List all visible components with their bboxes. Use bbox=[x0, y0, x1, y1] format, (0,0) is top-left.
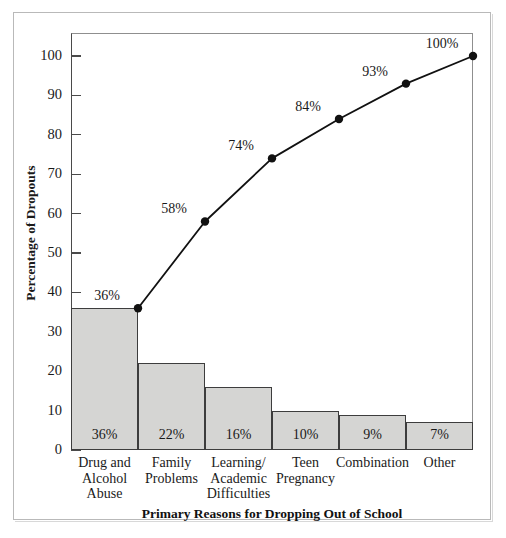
y-axis-tick-label: 100 bbox=[0, 48, 62, 63]
cumulative-point-label: 36% bbox=[79, 288, 135, 304]
bar: 10% bbox=[272, 411, 339, 450]
bar-value-label: 9% bbox=[340, 427, 405, 443]
y-axis-tick-mark bbox=[71, 174, 81, 175]
bar: 7% bbox=[406, 422, 473, 450]
bar-value-label: 10% bbox=[273, 427, 338, 443]
bar: 36% bbox=[71, 308, 138, 450]
bar-value-label: 7% bbox=[407, 427, 472, 443]
cumulative-point-label: 93% bbox=[347, 64, 403, 80]
x-axis-category-label: Other bbox=[399, 455, 481, 471]
x-axis-category-line: Abuse bbox=[64, 486, 146, 502]
y-axis-tick-label: 20 bbox=[0, 363, 62, 378]
bar-value-label: 36% bbox=[72, 427, 137, 443]
bar: 9% bbox=[339, 415, 406, 450]
cumulative-point-label: 84% bbox=[280, 99, 336, 115]
bar-value-label: 16% bbox=[206, 427, 271, 443]
y-axis-tick-mark bbox=[71, 213, 81, 214]
y-axis-title: Percentage of Dropouts bbox=[23, 143, 39, 323]
y-axis-tick-mark bbox=[71, 134, 81, 135]
y-axis-tick-label: 10 bbox=[0, 403, 62, 418]
y-axis-tick-label: 80 bbox=[0, 127, 62, 142]
y-axis-tick-mark bbox=[71, 252, 81, 253]
x-axis-category-line: Pregnancy bbox=[265, 471, 347, 487]
y-axis-tick-label: 90 bbox=[0, 87, 62, 102]
y-axis-tick-mark bbox=[71, 55, 81, 56]
bar: 22% bbox=[138, 363, 205, 450]
x-axis-title: Primary Reasons for Dropping Out of Scho… bbox=[71, 506, 473, 522]
y-axis-tick-label: 0 bbox=[0, 442, 62, 457]
cumulative-point-label: 74% bbox=[213, 138, 269, 154]
x-axis-category-line: Other bbox=[399, 455, 481, 471]
cumulative-point-label: 100% bbox=[414, 36, 470, 52]
cumulative-point-label: 58% bbox=[146, 201, 202, 217]
y-axis-tick-mark bbox=[71, 95, 81, 96]
bar: 16% bbox=[205, 387, 272, 450]
x-axis-category-line: Difficulties bbox=[198, 486, 280, 502]
y-axis-tick-label: 30 bbox=[0, 324, 62, 339]
bar-value-label: 22% bbox=[139, 427, 204, 443]
